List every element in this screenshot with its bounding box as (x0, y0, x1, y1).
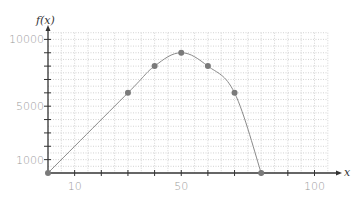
y-axis-title: f(x) (35, 14, 55, 27)
x-axis-title: x (344, 166, 351, 179)
data-point (178, 50, 184, 56)
x-tick-label: 50 (174, 180, 188, 193)
x-axis-arrow-icon (336, 171, 342, 176)
y-tick-label: 10000 (9, 33, 44, 46)
data-point (152, 63, 158, 69)
y-tick-label: 5000 (16, 100, 44, 113)
data-point (258, 170, 264, 176)
function-chart: 10501001000050001000 f(x) x (0, 0, 358, 203)
data-point (125, 90, 131, 96)
x-tick-label: 10 (68, 180, 82, 193)
axis-ticks (44, 39, 315, 176)
data-point (232, 90, 238, 96)
data-point (45, 170, 51, 176)
y-tick-label: 1000 (16, 154, 44, 167)
data-point (205, 63, 211, 69)
x-tick-label: 100 (304, 180, 325, 193)
